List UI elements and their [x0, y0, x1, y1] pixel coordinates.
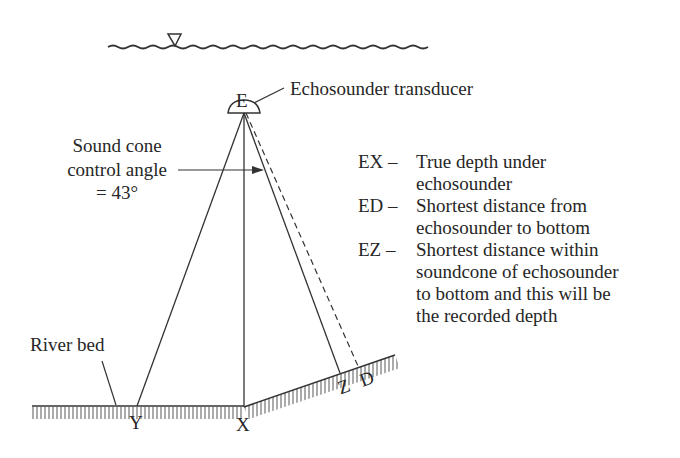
line-EZ: [244, 113, 340, 373]
river-bed-leader-line: [102, 361, 116, 405]
point-label-Y: Y: [129, 412, 143, 434]
legend-key: EZ –: [358, 239, 416, 327]
legend-key: ED –: [358, 195, 416, 239]
legend-item-ED: ED – Shortest distance from echosounder …: [358, 195, 619, 239]
cone-label-line3: = 43°: [54, 182, 180, 204]
legend: EX – True depth under echosounder ED – S…: [358, 151, 619, 327]
legend-desc: Shortest distance from echosounder to bo…: [416, 195, 590, 239]
legend-item-EZ: EZ – Shortest distance within soundcone …: [358, 239, 619, 327]
transducer-leader-line: [254, 88, 284, 103]
cone-label-line1: Sound cone: [54, 135, 180, 157]
water-surface-line: [108, 46, 428, 49]
transducer-label: Echosounder transducer: [290, 78, 473, 100]
legend-desc: True depth under echosounder: [416, 151, 546, 195]
point-label-E: E: [236, 90, 248, 112]
legend-key: EX –: [358, 151, 416, 195]
legend-desc: Shortest distance within soundcone of ec…: [416, 239, 619, 327]
legend-item-EX: EX – True depth under echosounder: [358, 151, 619, 195]
point-label-X: X: [236, 414, 250, 436]
water-level-triangle-icon: [168, 34, 181, 46]
cone-label-line2: control angle: [54, 159, 180, 181]
angle-arrowhead-icon: [252, 166, 264, 174]
line-ED: [246, 113, 358, 366]
river-bed-label: River bed: [30, 334, 104, 356]
